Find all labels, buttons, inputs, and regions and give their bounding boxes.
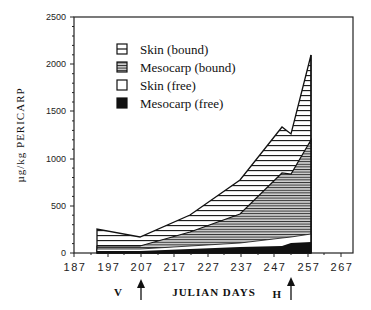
y-tick-label: 2000 — [46, 59, 66, 69]
x-tick-label: 207 — [131, 261, 154, 273]
x-tick-label: 257 — [298, 261, 321, 273]
legend-item-skin-bound: Skin (bound) — [117, 42, 208, 57]
x-tick-label: 247 — [264, 261, 287, 273]
x-tick-label: 217 — [164, 261, 187, 273]
y-tick-label: 0 — [61, 248, 66, 258]
chart-canvas: 0 500 1000 1500 2000 2500 187 197 207 21… — [0, 0, 371, 310]
legend-label: Skin (bound) — [140, 42, 208, 57]
legend-label: Mesocarp (bound) — [140, 60, 236, 75]
y-axis-title: µg/kg PERICARP — [14, 87, 26, 182]
x-tick-label: 227 — [198, 261, 221, 273]
legend-item-mesocarp-free: Mesocarp (free) — [117, 96, 223, 111]
h-marker-label: H — [272, 288, 282, 300]
v-marker-label: V — [114, 286, 123, 298]
legend-item-mesocarp-bound: Mesocarp (bound) — [117, 60, 236, 75]
legend-label: Mesocarp (free) — [140, 96, 223, 111]
legend-label: Skin (free) — [140, 78, 196, 93]
x-tick-label: 267 — [331, 261, 354, 273]
x-tick-label: 237 — [231, 261, 254, 273]
x-tick-label: 187 — [64, 261, 87, 273]
y-tick-labels: 0 500 1000 1500 2000 2500 — [46, 12, 66, 258]
h-arrow-icon — [287, 277, 295, 300]
white-swatch-icon — [117, 80, 127, 90]
x-axis-title: JULIAN DAYS — [172, 286, 256, 298]
black-swatch-icon — [117, 98, 127, 108]
v-arrow-icon — [137, 279, 145, 300]
x-tick-labels: 187 197 207 217 227 237 247 257 267 — [64, 261, 354, 273]
y-tick-label: 1000 — [46, 154, 66, 164]
y-tick-label: 500 — [51, 201, 66, 211]
x-tick-label: 197 — [98, 261, 121, 273]
dense-lines-swatch-icon — [117, 62, 127, 72]
y-tick-label: 2500 — [46, 12, 66, 22]
y-tick-label: 1500 — [46, 106, 66, 116]
legend-item-skin-free: Skin (free) — [117, 78, 196, 93]
legend: Skin (bound) Mesocarp (bound) Skin (free… — [117, 42, 236, 111]
